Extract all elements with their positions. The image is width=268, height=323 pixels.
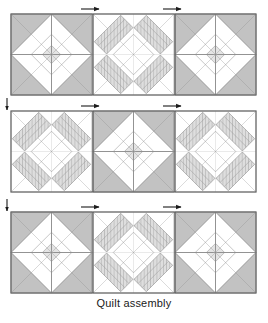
- quilt-block-star-r1c3: [175, 14, 256, 95]
- quilt-block-star-r2c2: [93, 111, 174, 192]
- quilt-block-striped-r2c1: [11, 111, 92, 192]
- quilt-block-star-r3c3: [175, 212, 256, 293]
- figure-caption: Quilt assembly: [0, 297, 268, 309]
- blocks-layer: [11, 14, 256, 293]
- quilt-block-striped-r1c2: [93, 14, 174, 95]
- quilt-assembly-diagram: Quilt assembly: [0, 0, 268, 323]
- quilt-block-striped-r2c3: [175, 111, 256, 192]
- quilt-block-star-r1c1: [11, 14, 92, 95]
- quilt-block-star-r3c1: [11, 212, 92, 293]
- quilt-svg: [0, 0, 268, 323]
- quilt-block-striped-r3c2: [93, 212, 174, 293]
